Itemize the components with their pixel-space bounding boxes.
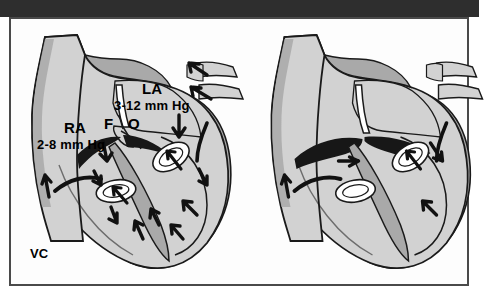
label-left-atrium: LA [142, 80, 162, 97]
panel-patent-foramen-ovale: LA 3-12 mm Hg RA 2-8 mm Hg F O VC [11, 19, 250, 284]
panel-closed-septum [250, 19, 488, 284]
figure-frame: LA 3-12 mm Hg RA 2-8 mm Hg F O VC [9, 17, 469, 286]
label-right-atrium-pressure: 2-8 mm Hg [37, 137, 105, 152]
label-vena-cava: VC [30, 246, 48, 261]
label-right-atrium: RA [64, 119, 86, 136]
label-left-atrium-pressure: 3-12 mm Hg [114, 98, 190, 113]
pulmonary-vein-lower-r [439, 84, 483, 99]
label-foramen-o: O [128, 115, 140, 132]
heart-diagram-right [250, 19, 488, 284]
label-foramen-f: F [104, 115, 113, 132]
top-dark-band [0, 0, 479, 17]
pulmonary-vein-stub-r [427, 64, 443, 82]
